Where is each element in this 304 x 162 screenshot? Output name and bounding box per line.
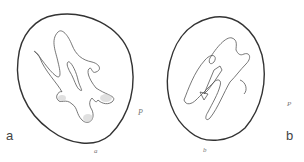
inner-structure-b: [184, 38, 250, 120]
side-label-a: P: [138, 108, 143, 117]
sub-label-b: b: [203, 146, 207, 154]
shaded-region-a3: [58, 95, 66, 101]
sub-label-a: a: [94, 147, 98, 155]
figure-drawing: [0, 0, 304, 162]
cell-outline-b: [167, 17, 264, 140]
panel-label-a: a: [6, 128, 13, 143]
small-curl-b: [240, 80, 246, 94]
side-label-b: P: [287, 100, 291, 108]
panel-label-b: b: [286, 128, 293, 143]
figure: a b a b P P: [0, 0, 304, 162]
shaded-region-a2: [83, 114, 93, 122]
cell-outline-a: [17, 14, 133, 143]
inner-structure-a: [34, 31, 114, 123]
inner-fold-a: [67, 62, 82, 91]
arrowhead-b: [200, 92, 208, 100]
shaded-region-a1: [100, 94, 112, 102]
